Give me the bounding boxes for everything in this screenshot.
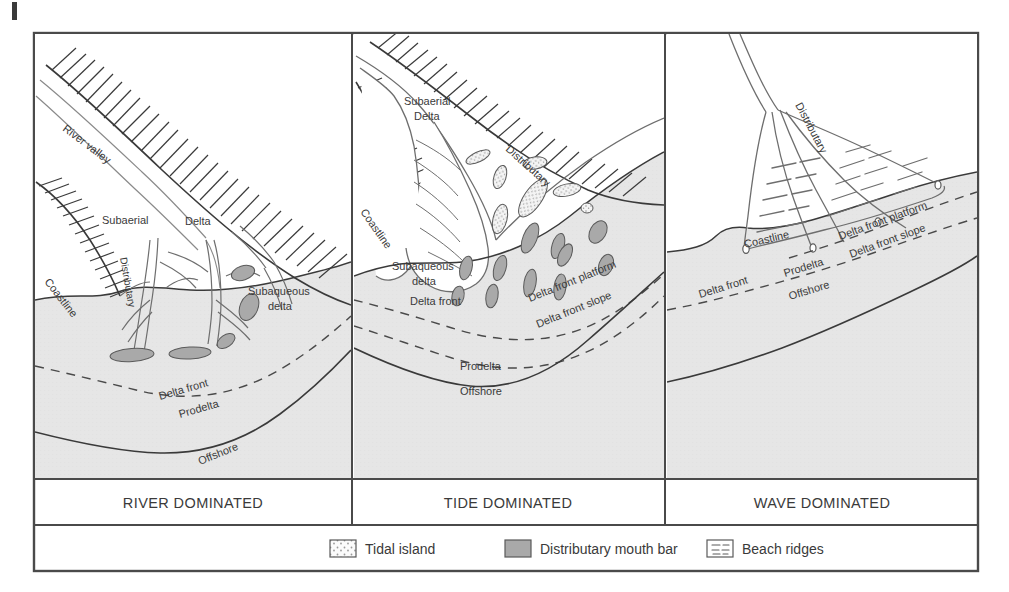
delta-classification-diagram: River valley Subaerial Delta Distributar… bbox=[0, 0, 1009, 592]
label-tide-subaerial-2: Delta bbox=[414, 110, 441, 122]
label-river-subaerial: Subaerial bbox=[102, 214, 148, 226]
panel-wave-dominated: Distributary Coastline Delta front platf… bbox=[667, 34, 977, 479]
figure-root: River valley Subaerial Delta Distributar… bbox=[0, 0, 1009, 592]
legend-label-tidal-island: Tidal island bbox=[365, 541, 435, 557]
panel-title-tide: TIDE DOMINATED bbox=[444, 495, 573, 511]
panel-tide-dominated: Subaerial Delta Distributary Coastline S… bbox=[354, 30, 664, 479]
panel-title-wave: WAVE DOMINATED bbox=[754, 495, 891, 511]
label-tide-offshore: Offshore bbox=[460, 385, 502, 397]
label-river-delta: Delta bbox=[185, 215, 212, 227]
label-river-subaqueous-1: Subaqueous bbox=[248, 285, 310, 297]
page-edge-artifact bbox=[12, 2, 17, 20]
label-tide-subaqueous-1: Subaqueous bbox=[392, 260, 454, 272]
label-tide-subaerial-1: Subaerial bbox=[404, 95, 450, 107]
panel-title-river: RIVER DOMINATED bbox=[123, 495, 263, 511]
legend-swatch-distributary-mouth-bar bbox=[505, 540, 531, 557]
legend-label-beach-ridges: Beach ridges bbox=[742, 541, 824, 557]
legend-swatch-tidal-island bbox=[330, 540, 356, 557]
panel-river-dominated: River valley Subaerial Delta Distributar… bbox=[35, 34, 351, 479]
legend-label-distributary-mouth-bar: Distributary mouth bar bbox=[540, 541, 678, 557]
label-tide-subaqueous-2: delta bbox=[412, 275, 437, 287]
label-tide-prodelta: Prodelta bbox=[460, 360, 502, 372]
label-river-subaqueous-2: delta bbox=[268, 300, 293, 312]
legend: Tidal island Distributary mouth bar Beac… bbox=[330, 540, 824, 557]
label-tide-delta-front: Delta front bbox=[410, 295, 461, 307]
